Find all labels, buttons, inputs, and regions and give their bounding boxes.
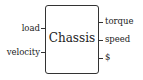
output-label-torque: torque [105,16,134,26]
output-label-speed: speed [105,34,130,44]
output-port-speed [99,40,103,41]
block-title: Chassis [45,31,99,45]
input-port-load [41,28,45,29]
input-label-velocity: velocity [7,47,40,57]
output-port-torque [99,22,103,23]
input-port-velocity [41,52,45,53]
output-port-dollar [99,58,103,59]
output-label-dollar: $ [105,52,110,62]
input-label-load: load [22,23,40,33]
